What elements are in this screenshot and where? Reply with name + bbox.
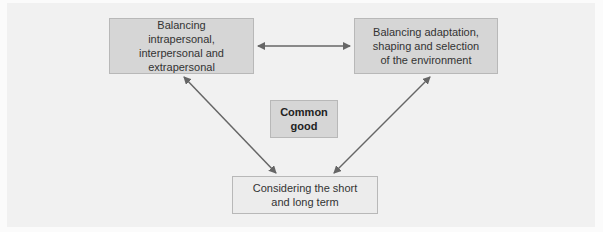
arrow-right-bottom [334, 77, 430, 173]
node-short-long-term: Considering the short and long term [232, 176, 378, 214]
node-label: Common good [280, 105, 328, 133]
node-intrapersonal-balance: Balancing intrapersonal, interpersonal a… [109, 18, 254, 74]
node-common-good: Common good [270, 100, 338, 138]
node-label: Balancing adaptation, shaping and select… [369, 25, 483, 67]
node-label: Considering the short and long term [251, 181, 359, 209]
node-adaptation-balance: Balancing adaptation, shaping and select… [354, 18, 498, 74]
node-label: Balancing intrapersonal, interpersonal a… [124, 18, 239, 74]
arrow-left-bottom [184, 77, 276, 173]
